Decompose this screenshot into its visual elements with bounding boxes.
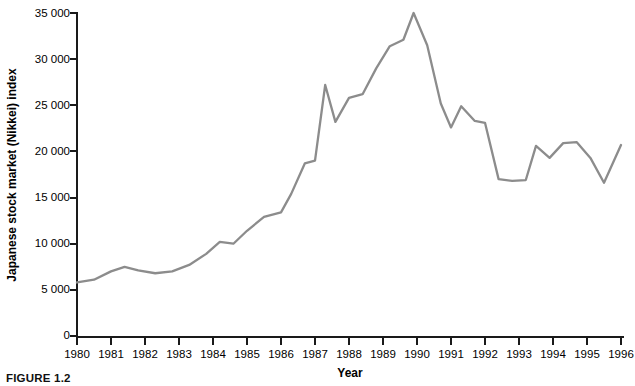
axis-lines xyxy=(77,12,624,337)
x-tick-label: 1996 xyxy=(608,348,634,360)
x-tick-label: 1981 xyxy=(98,348,124,360)
x-tick-label: 1983 xyxy=(166,348,192,360)
x-tick-label: 1980 xyxy=(64,348,90,360)
x-tick-label: 1982 xyxy=(132,348,158,360)
y-tick-label: 15 000 xyxy=(35,191,70,203)
y-tick-label: 10 000 xyxy=(35,237,70,249)
x-tick-label: 1995 xyxy=(574,348,600,360)
x-tick-marks xyxy=(77,337,621,345)
x-tick-label: 1994 xyxy=(540,348,566,360)
figure-container: Japanese stock market (Nikkei) index 35 … xyxy=(0,0,635,386)
y-tick-label: 5 000 xyxy=(41,283,70,295)
y-tick-label: 0 xyxy=(64,329,70,341)
x-tick-label: 1991 xyxy=(438,348,464,360)
x-tick-label: 1984 xyxy=(200,348,226,360)
y-tick-label: 35 000 xyxy=(35,7,70,19)
y-tick-label: 30 000 xyxy=(35,53,70,65)
x-tick-label: 1993 xyxy=(506,348,532,360)
figure-caption: FIGURE 1.2 xyxy=(6,372,71,386)
x-axis-title: Year xyxy=(337,366,363,380)
y-tick-label: 25 000 xyxy=(35,99,70,111)
y-axis-title: Japanese stock market (Nikkei) index xyxy=(5,68,19,282)
x-tick-label: 1988 xyxy=(336,348,362,360)
x-tick-label: 1989 xyxy=(370,348,396,360)
x-tick-label: 1992 xyxy=(472,348,498,360)
y-tick-label: 20 000 xyxy=(35,145,70,157)
x-tick-label: 1987 xyxy=(302,348,328,360)
nikkei-data-line xyxy=(77,13,621,282)
nikkei-line-chart: Japanese stock market (Nikkei) index 35 … xyxy=(0,0,635,386)
y-tick-labels: 35 000 30 000 25 000 20 000 15 000 10 00… xyxy=(35,7,70,341)
x-tick-label: 1985 xyxy=(234,348,260,360)
x-tick-labels: 1980 1981 1982 1983 1984 1985 1986 1987 … xyxy=(64,348,634,360)
x-tick-label: 1986 xyxy=(268,348,294,360)
x-tick-label: 1990 xyxy=(404,348,430,360)
